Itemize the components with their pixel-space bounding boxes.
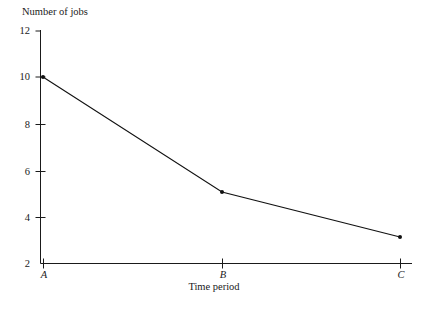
data-point-a xyxy=(41,75,45,79)
y-tick-label-12: 12 xyxy=(8,26,30,36)
y-tick-label-10: 10 xyxy=(8,72,30,82)
data-line xyxy=(43,77,400,237)
x-axis-title: Time period xyxy=(0,281,428,293)
y-tick-label-6: 6 xyxy=(8,167,30,177)
data-point-b xyxy=(220,190,224,194)
x-tick-label-c: C xyxy=(389,269,413,280)
chart-svg xyxy=(0,0,428,309)
x-tick-label-a: A xyxy=(32,269,56,280)
y-tick-label-2: 2 xyxy=(8,259,30,269)
y-tick-label-8: 8 xyxy=(8,120,30,130)
data-point-c xyxy=(398,235,402,239)
y-tick-label-4: 4 xyxy=(8,213,30,223)
plot-area xyxy=(0,0,428,309)
chart-figure: Number of jobs 12 10 8 6 4 2 xyxy=(0,0,428,309)
x-tick-label-b: B xyxy=(211,269,235,280)
